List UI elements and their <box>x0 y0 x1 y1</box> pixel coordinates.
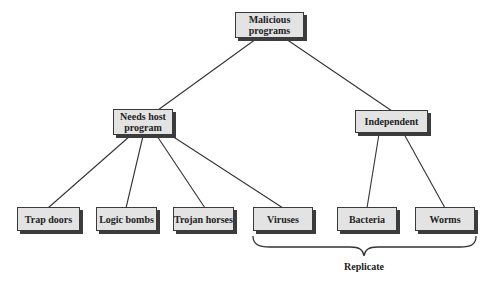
node-logic-bombs: Logic bombs <box>96 207 157 231</box>
replicate-label: Replicate <box>334 261 394 272</box>
edge-needs-host-trojan-horses <box>157 136 205 208</box>
connector-lines <box>0 0 491 285</box>
node-independent: Independent <box>355 110 428 133</box>
edge-malicious-needs-host <box>158 39 256 110</box>
edge-malicious-independent <box>286 39 392 111</box>
node-trap-doors: Trap doors <box>17 207 80 231</box>
edge-needs-host-trap-doors <box>48 136 130 208</box>
edge-needs-host-logic-bombs <box>126 136 143 208</box>
node-bacteria: Bacteria <box>337 207 397 231</box>
edge-needs-host-viruses <box>172 136 283 208</box>
node-malicious-programs: Malicious programs <box>235 12 304 38</box>
node-worms: Worms <box>415 207 475 231</box>
node-viruses: Viruses <box>253 207 313 231</box>
edge-independent-worms <box>404 134 445 208</box>
node-needs-host-program: Needs host program <box>113 109 173 135</box>
malware-taxonomy-diagram: Malicious programs Needs host program In… <box>0 0 491 285</box>
edge-independent-bacteria <box>367 134 379 208</box>
node-trojan-horses: Trojan horses <box>173 207 234 231</box>
replicate-brace <box>253 236 476 256</box>
